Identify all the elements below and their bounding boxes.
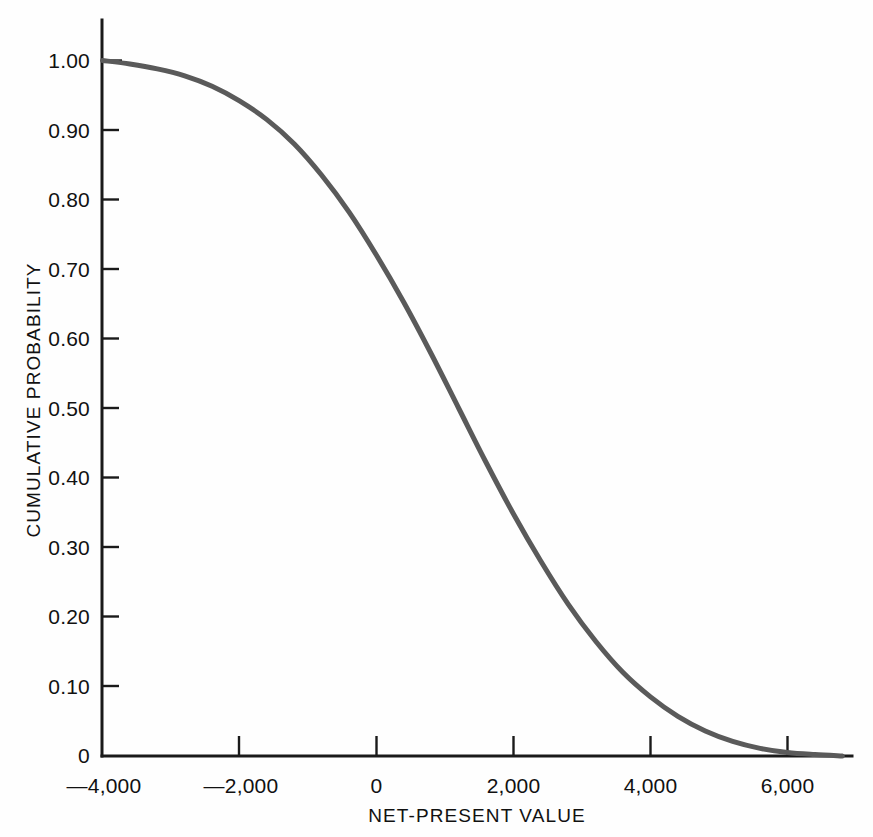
x-tick-label--2000: —2,000 [204, 774, 279, 797]
y-tick-label-0.20: 0.20 [48, 605, 90, 628]
data-series-line [103, 61, 843, 757]
y-tick-label-0.10: 0.10 [48, 675, 90, 698]
y-tick-label-0.90: 0.90 [48, 119, 90, 142]
y-tick-label-0.30: 0.30 [48, 536, 90, 559]
y-tick-label-0.70: 0.70 [48, 258, 90, 281]
x-tick-label-0: 0 [371, 774, 383, 797]
y-tick-label-0.60: 0.60 [48, 327, 90, 350]
x-axis-ticks [239, 736, 788, 756]
y-tick-label-0.40: 0.40 [48, 466, 90, 489]
x-tick-label-2000: 2,000 [487, 774, 541, 797]
chart-svg: 1.00 0.90 0.80 0.70 0.60 0.50 0.40 0.30 … [0, 0, 873, 837]
x-tick-label-6000: 6,000 [761, 774, 815, 797]
chart-container: 1.00 0.90 0.80 0.70 0.60 0.50 0.40 0.30 … [0, 0, 873, 837]
x-tick-label-4000: 4,000 [624, 774, 678, 797]
x-axis-title: NET-PRESENT VALUE [368, 805, 586, 826]
y-axis-ticks [102, 61, 122, 687]
y-axis-title: CUMULATIVE PROBABILITY [23, 262, 44, 537]
y-tick-label-0.50: 0.50 [48, 397, 90, 420]
y-tick-label-0.80: 0.80 [48, 188, 90, 211]
y-tick-label-1.00: 1.00 [48, 49, 90, 72]
y-tick-label-0: 0 [78, 744, 90, 767]
x-tick-label--4000: —4,000 [67, 774, 142, 797]
